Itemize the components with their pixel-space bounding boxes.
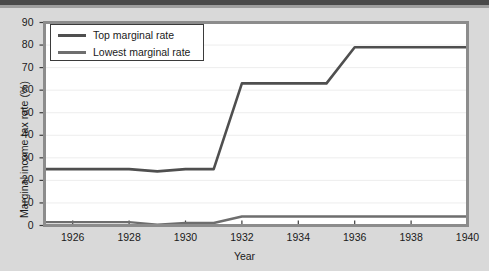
legend-swatch-lowest-marginal-rate <box>58 51 86 54</box>
x-tick-label: 1926 <box>53 231 93 243</box>
y-tick-label: 40 <box>12 128 34 140</box>
y-tick-label: 10 <box>12 196 34 208</box>
y-tick-label: 90 <box>12 16 34 28</box>
x-axis-label: Year <box>0 250 489 262</box>
legend: Top marginal rate Lowest marginal rate <box>50 24 204 61</box>
y-tick-label: 70 <box>12 61 34 73</box>
y-tick-label: 60 <box>12 83 34 95</box>
y-tick-label: 30 <box>12 151 34 163</box>
x-tick-label: 1934 <box>278 231 318 243</box>
y-tick-label: 0 <box>12 219 34 231</box>
x-tick-label: 1930 <box>166 231 206 243</box>
y-tick-label: 80 <box>12 38 34 50</box>
legend-label-lowest-marginal-rate: Lowest marginal rate <box>93 46 190 58</box>
y-tick-label: 20 <box>12 173 34 185</box>
x-tick-label: 1932 <box>222 231 262 243</box>
x-tick-label: 1938 <box>391 231 431 243</box>
legend-item-top-marginal-rate: Top marginal rate <box>51 26 174 44</box>
x-tick-label: 1928 <box>109 231 149 243</box>
figure: Marginal income tax rate (%) Year 010203… <box>0 0 489 271</box>
legend-label-top-marginal-rate: Top marginal rate <box>93 29 174 41</box>
x-tick-label: 1940 <box>448 231 488 243</box>
legend-swatch-top-marginal-rate <box>58 34 86 37</box>
legend-item-lowest-marginal-rate: Lowest marginal rate <box>51 43 190 61</box>
y-tick-label: 50 <box>12 106 34 118</box>
x-tick-label: 1936 <box>335 231 375 243</box>
